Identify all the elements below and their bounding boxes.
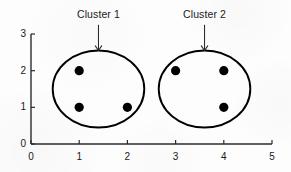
data-point-s2-2: [219, 66, 228, 75]
cluster-ellipse-1: [53, 51, 145, 128]
x-tick-label-3: 3: [173, 152, 179, 162]
x-tick-label-0: 0: [28, 152, 34, 162]
y-tick-label-0: 0: [12, 139, 26, 149]
x-tick-label-2: 2: [125, 152, 131, 162]
y-tick-label-3: 3: [12, 29, 26, 39]
axes-group: [31, 34, 272, 144]
x-tick-label-4: 4: [221, 152, 227, 162]
plot-canvas: [0, 0, 291, 172]
cluster-ellipse-2: [159, 51, 251, 128]
annotation-arrows: [95, 25, 207, 51]
x-tick-label-1: 1: [76, 152, 82, 162]
data-point-s1-1: [75, 66, 84, 75]
data-point-s2-3: [219, 103, 228, 112]
y-tick-label-2: 2: [12, 66, 26, 76]
cluster-annotation-label-2: Cluster 2: [183, 8, 226, 20]
cluster-enclosures: [53, 51, 251, 128]
data-point-s2-1: [171, 66, 180, 75]
data-point-s1-3: [123, 103, 132, 112]
cluster-scatter-figure: 012345 0123 Cluster 1Cluster 2: [0, 0, 291, 172]
data-point-s1-2: [75, 103, 84, 112]
data-points: [75, 66, 229, 112]
cluster-annotation-label-1: Cluster 1: [77, 8, 120, 20]
y-tick-label-1: 1: [12, 102, 26, 112]
x-tick-label-5: 5: [269, 152, 275, 162]
